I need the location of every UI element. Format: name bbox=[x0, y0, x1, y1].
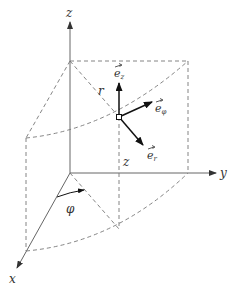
point-p-marker bbox=[117, 115, 122, 120]
e-r-vector bbox=[119, 117, 143, 145]
svg-text:er: er bbox=[147, 149, 158, 163]
x-axis bbox=[17, 173, 70, 268]
z-axis-label: z bbox=[65, 6, 73, 20]
bottom-arc bbox=[26, 173, 188, 251]
phi-label: φ bbox=[66, 202, 75, 216]
cylindrical-coordinates-diagram: z y x φ r z ez eφ er bbox=[0, 0, 239, 286]
top-radius-r bbox=[70, 61, 119, 117]
e-z-label: ez bbox=[114, 64, 125, 82]
z-height-label: z bbox=[122, 155, 130, 169]
top-arc bbox=[26, 61, 188, 138]
e-phi-vector bbox=[119, 102, 152, 117]
x-axis-label: x bbox=[9, 272, 16, 286]
r-label: r bbox=[98, 84, 105, 98]
phi-angle-arc bbox=[57, 190, 84, 197]
e-phi-label: eφ bbox=[155, 99, 167, 117]
svg-text:ez: ez bbox=[114, 67, 125, 81]
svg-text:eφ: eφ bbox=[155, 102, 167, 116]
top-radius-to-left bbox=[26, 61, 70, 138]
y-axis-label: y bbox=[219, 166, 227, 180]
e-r-label: er bbox=[147, 146, 158, 164]
bottom-radius bbox=[70, 173, 119, 229]
